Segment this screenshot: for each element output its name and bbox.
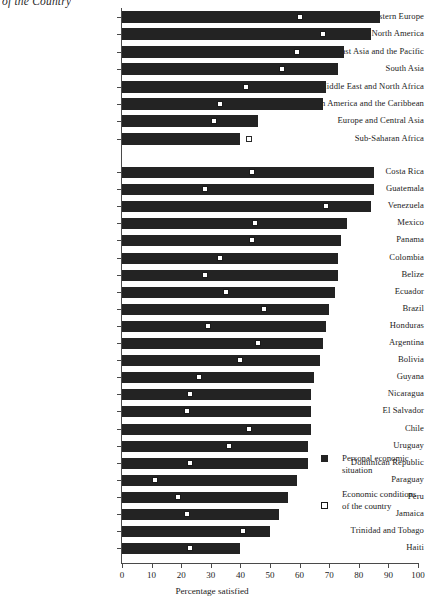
bar-personal-economic-situation [122, 389, 311, 400]
marker-economic-conditions-of-country [294, 49, 300, 55]
marker-economic-conditions-of-country [323, 203, 329, 209]
category-label: El Salvador [306, 404, 424, 417]
marker-economic-conditions-of-country [187, 391, 193, 397]
category-label: Argentina [306, 336, 424, 349]
x-axis-tick [388, 563, 389, 568]
bar-personal-economic-situation [122, 355, 320, 366]
bar-personal-economic-situation [122, 115, 258, 127]
x-axis-tick [329, 563, 330, 568]
legend-item-country: Economic conditions of the country [320, 489, 424, 512]
bar-personal-economic-situation [122, 63, 338, 75]
marker-economic-conditions-of-country [196, 374, 202, 380]
marker-economic-conditions-of-country [211, 118, 217, 124]
bar-personal-economic-situation [122, 372, 314, 383]
bar-personal-economic-situation [122, 218, 347, 229]
bar-personal-economic-situation [122, 321, 326, 332]
bar-personal-economic-situation [122, 441, 308, 452]
bar-personal-economic-situation [122, 28, 371, 40]
bar-personal-economic-situation [122, 458, 308, 469]
bar-personal-economic-situation [122, 201, 371, 212]
marker-economic-conditions-of-country [320, 31, 326, 37]
marker-economic-conditions-of-country [184, 408, 190, 414]
x-axis-tick-label: 80 [354, 570, 363, 580]
x-axis-tick [270, 563, 271, 568]
category-label: Bolivia [306, 353, 424, 366]
category-label: Sub-Saharan Africa [306, 132, 424, 145]
category-label: Uruguay [306, 439, 424, 452]
bar-personal-economic-situation [122, 184, 374, 195]
bar-personal-economic-situation [122, 424, 311, 435]
marker-economic-conditions-of-country [246, 426, 252, 432]
x-axis-tick-label: 20 [177, 570, 186, 580]
bar-personal-economic-situation [122, 526, 270, 537]
category-label: Chile [306, 422, 424, 435]
x-axis-tick [359, 563, 360, 568]
marker-economic-conditions-of-country [226, 443, 232, 449]
bar-personal-economic-situation [122, 81, 326, 93]
marker-economic-conditions-of-country [217, 101, 223, 107]
category-label: Europe and Central Asia [306, 114, 424, 127]
filled-square-icon [321, 455, 328, 462]
x-axis-tick-label: 100 [411, 570, 425, 580]
legend-label-country: Economic conditions of the country [342, 489, 424, 512]
marker-economic-conditions-of-country [279, 66, 285, 72]
x-axis-tick [300, 563, 301, 568]
marker-economic-conditions-of-country [240, 528, 246, 534]
x-axis-tick-label: 70 [325, 570, 334, 580]
bar-personal-economic-situation [122, 270, 338, 281]
marker-economic-conditions-of-country [297, 14, 303, 20]
bar-personal-economic-situation [122, 509, 279, 520]
marker-economic-conditions-of-country [223, 289, 229, 295]
category-label: Latin America and the Caribbean [306, 97, 424, 110]
marker-economic-conditions-of-country [184, 511, 190, 517]
bar-personal-economic-situation [122, 133, 240, 145]
bar-personal-economic-situation [122, 11, 380, 23]
x-axis-title: Percentage satisfied [0, 586, 424, 596]
hollow-square-icon [321, 502, 328, 509]
legend-item-personal: Personal economic situation [320, 453, 424, 476]
chart-legend: Personal economic situation Economic con… [320, 453, 424, 525]
category-label: Haiti [306, 541, 424, 554]
category-label: Trinidad and Tobago [306, 524, 424, 537]
marker-economic-conditions-of-country [205, 323, 211, 329]
legend-label-personal: Personal economic situation [342, 453, 424, 476]
bar-personal-economic-situation [122, 338, 323, 349]
x-axis-tick-label: 50 [266, 570, 275, 580]
x-axis-tick-label: 30 [206, 570, 215, 580]
bar-personal-economic-situation [122, 167, 374, 178]
x-axis-tick [181, 563, 182, 568]
x-axis-tick [211, 563, 212, 568]
bar-personal-economic-situation [122, 235, 341, 246]
x-axis-tick [240, 563, 241, 568]
marker-economic-conditions-of-country [187, 460, 193, 466]
bar-personal-economic-situation [122, 543, 240, 554]
x-axis-tick [418, 563, 419, 568]
marker-economic-conditions-of-country [217, 255, 223, 261]
x-axis-tick-label: 40 [236, 570, 245, 580]
marker-economic-conditions-of-country [249, 237, 255, 243]
category-label: Nicaragua [306, 387, 424, 400]
bar-personal-economic-situation [122, 253, 338, 264]
x-axis-tick-label: 0 [120, 570, 125, 580]
marker-economic-conditions-of-country [255, 340, 261, 346]
marker-economic-conditions-of-country [249, 169, 255, 175]
bar-personal-economic-situation [122, 475, 297, 486]
x-axis-tick-label: 10 [147, 570, 156, 580]
bar-personal-economic-situation [122, 46, 344, 58]
x-axis-tick-label: 60 [295, 570, 304, 580]
marker-economic-conditions-of-country [152, 477, 158, 483]
marker-economic-conditions-of-country [187, 545, 193, 551]
marker-economic-conditions-of-country [243, 84, 249, 90]
marker-economic-conditions-of-country [202, 272, 208, 278]
marker-economic-conditions-of-country [175, 494, 181, 500]
x-axis-tick [152, 563, 153, 568]
x-axis-tick [122, 563, 123, 568]
marker-economic-conditions-of-country [246, 136, 252, 142]
bar-personal-economic-situation [122, 406, 311, 417]
x-axis-tick-label: 90 [384, 570, 393, 580]
marker-economic-conditions-of-country [237, 357, 243, 363]
marker-economic-conditions-of-country [252, 220, 258, 226]
marker-economic-conditions-of-country [202, 186, 208, 192]
bar-personal-economic-situation [122, 492, 288, 503]
